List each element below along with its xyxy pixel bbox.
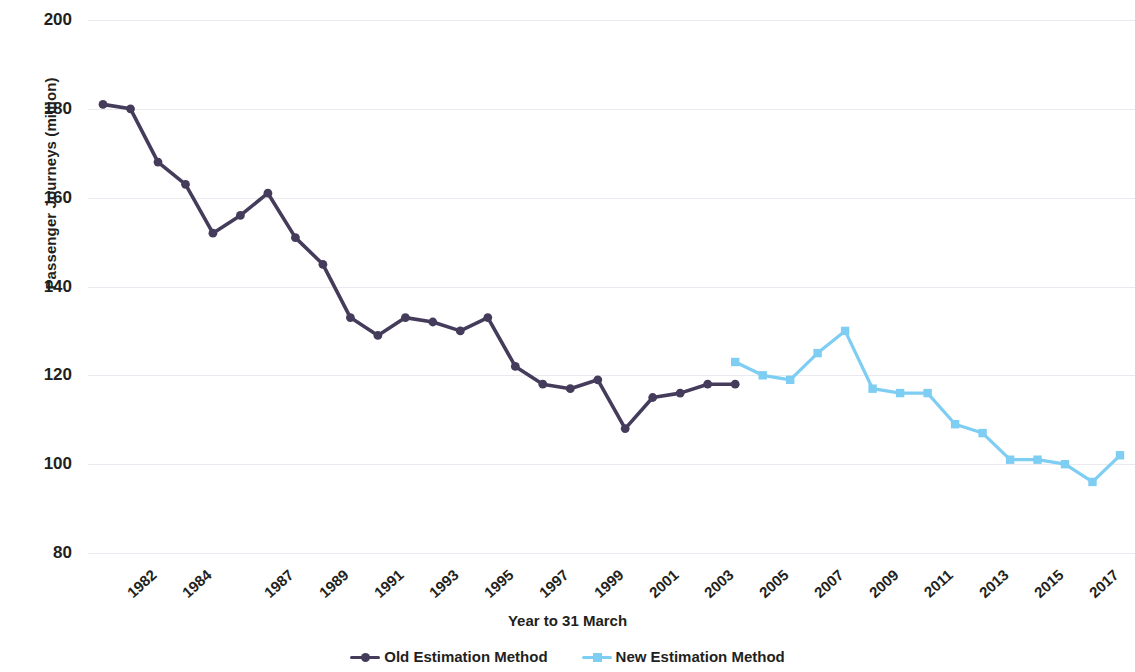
- series-new-estimation-method: [731, 327, 1124, 486]
- data-point-marker: [181, 180, 190, 189]
- data-point-marker: [923, 389, 931, 397]
- x-axis-title: Year to 31 March: [0, 612, 1135, 629]
- chart-legend: Old Estimation MethodNew Estimation Meth…: [0, 648, 1135, 665]
- legend-swatch-icon: [582, 651, 612, 663]
- series-line: [103, 104, 735, 428]
- data-point-marker: [676, 389, 685, 398]
- legend-label: New Estimation Method: [616, 648, 785, 665]
- data-point-marker: [264, 189, 273, 198]
- data-point-marker: [346, 313, 355, 322]
- data-point-marker: [731, 358, 739, 366]
- data-point-marker: [401, 313, 410, 322]
- data-point-marker: [786, 376, 794, 384]
- data-point-marker: [319, 260, 328, 269]
- data-point-marker: [593, 375, 602, 384]
- series-old-estimation-method: [99, 100, 740, 433]
- data-point-marker: [759, 371, 767, 379]
- data-point-marker: [566, 384, 575, 393]
- data-point-marker: [126, 104, 135, 113]
- series-line: [735, 331, 1120, 482]
- data-point-marker: [483, 313, 492, 322]
- data-point-marker: [813, 349, 821, 357]
- data-point-marker: [1116, 451, 1124, 459]
- data-point-marker: [236, 211, 245, 220]
- data-point-marker: [1033, 456, 1041, 464]
- series-lines: [0, 0, 1135, 672]
- plot-area: [0, 0, 1135, 672]
- data-point-marker: [1088, 478, 1096, 486]
- data-point-marker: [99, 100, 108, 109]
- chart-container: Passenger Journeys (million) 20018016014…: [0, 0, 1135, 672]
- data-point-marker: [703, 380, 712, 389]
- data-point-marker: [209, 229, 218, 238]
- data-point-marker: [511, 362, 520, 371]
- data-point-marker: [648, 393, 657, 402]
- data-point-marker: [291, 233, 300, 242]
- data-point-marker: [978, 429, 986, 437]
- data-point-marker: [868, 385, 876, 393]
- data-point-marker: [621, 424, 630, 433]
- legend-item[interactable]: Old Estimation Method: [350, 648, 547, 665]
- data-point-marker: [538, 380, 547, 389]
- data-point-marker: [841, 327, 849, 335]
- data-point-marker: [731, 380, 740, 389]
- data-point-marker: [456, 327, 465, 336]
- legend-item[interactable]: New Estimation Method: [582, 648, 785, 665]
- data-point-marker: [1006, 456, 1014, 464]
- data-point-marker: [951, 420, 959, 428]
- legend-swatch-icon: [350, 651, 380, 663]
- data-point-marker: [374, 331, 383, 340]
- data-point-marker: [154, 158, 163, 167]
- data-point-marker: [1061, 460, 1069, 468]
- data-point-marker: [896, 389, 904, 397]
- data-point-marker: [428, 318, 437, 327]
- legend-label: Old Estimation Method: [384, 648, 547, 665]
